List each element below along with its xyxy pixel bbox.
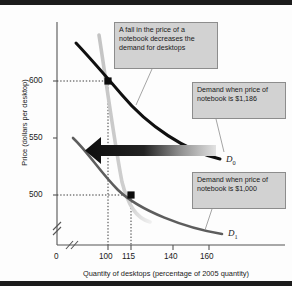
x-axis-ticks bbox=[108, 245, 209, 250]
x-tick-label-140: 140 bbox=[164, 252, 178, 261]
callout-shift-explanation: A fall in the price of a notebook decrea… bbox=[114, 22, 218, 69]
curve-label-d0-sub: 0 bbox=[233, 159, 236, 166]
data-point-marker-d1 bbox=[127, 191, 134, 198]
x-tick-label-160: 160 bbox=[200, 252, 214, 261]
y-tick-label-550: 550 bbox=[29, 133, 43, 142]
callout-demand-d1: Demand when price of notebook is $1,000 bbox=[192, 172, 286, 209]
y-tick-label-500: 500 bbox=[29, 190, 43, 199]
callout-demand-d0: Demand when price of notebook is $1,186 bbox=[192, 82, 286, 119]
data-point-marker-d0 bbox=[104, 77, 111, 84]
curve-label-d1: D1 bbox=[228, 228, 238, 240]
x-tick-label-100: 100 bbox=[99, 252, 113, 261]
leader-line-d0 bbox=[216, 119, 224, 152]
y-axis-title: Price (dollars per desktop) bbox=[20, 43, 29, 203]
y-tick-label-600: 600 bbox=[29, 76, 43, 85]
curve-label-d1-sub: 1 bbox=[235, 233, 238, 240]
x-tick-label-115: 115 bbox=[122, 252, 135, 261]
x-tick-label-0: 0 bbox=[54, 252, 59, 261]
x-axis-title: Quantity of desktops (percentage of 2005… bbox=[44, 269, 288, 278]
y-axis-ticks bbox=[53, 81, 57, 195]
leader-line-d1 bbox=[205, 209, 212, 230]
shift-arrow bbox=[85, 137, 216, 164]
leader-line-shift bbox=[136, 69, 152, 105]
curve-label-d0: D0 bbox=[226, 154, 236, 166]
demand-curve-shift-figure: A fall in the price of a notebook decrea… bbox=[0, 0, 292, 286]
